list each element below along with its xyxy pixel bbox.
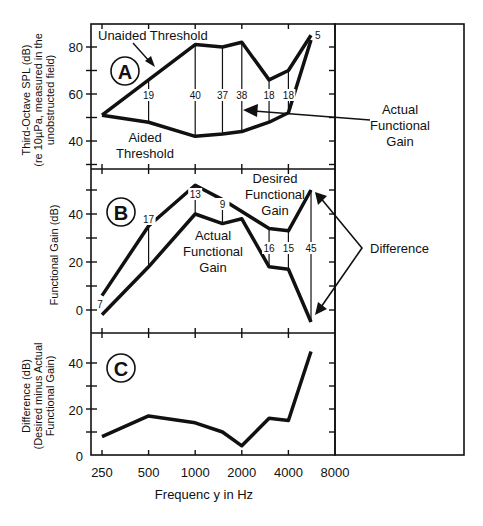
aided-threshold-label-line1: Aided <box>128 130 161 145</box>
gain-value-label: 5 <box>315 30 321 41</box>
panel-c-y-axis-label: Difference (dB) (Desired minus Actual Fu… <box>20 343 56 450</box>
difference-value-label: 13 <box>190 189 202 200</box>
difference-value-label: 17 <box>143 214 155 225</box>
panel-c-ylabel-line2: (Desired minus Actual <box>32 343 44 450</box>
afg-label-line1: Actual <box>382 102 418 117</box>
panel-a-ytick-40: 40 <box>69 134 83 149</box>
x-tick-label: 1000 <box>181 465 210 480</box>
aided-threshold-label-line2: Threshold <box>116 146 174 161</box>
difference-bracket-arrow <box>319 196 362 310</box>
x-tick-label: 500 <box>138 465 160 480</box>
x-tick-label: 4000 <box>274 465 303 480</box>
actual-label-line2: Functional <box>183 244 243 259</box>
actual-label-line3: Gain <box>199 260 226 275</box>
panel-b-y-axis-label: Functional Gain (dB) <box>48 205 60 306</box>
badge-letter-c: C <box>114 358 128 380</box>
desired-label-line1: Desired <box>253 171 298 186</box>
gain-value-label: 40 <box>190 90 202 101</box>
panel-a: Third-Octave SPL (dB) (re 10µPa, measure… <box>20 28 430 167</box>
afg-label-line3: Gain <box>386 134 413 149</box>
panel-a-ytick-60: 60 <box>69 87 83 102</box>
afg-label-line2: Functional <box>370 118 430 133</box>
unaided-threshold-label: Unaided Threshold <box>98 28 208 43</box>
gain-value-label: 19 <box>143 90 155 101</box>
desired-label-line3: Gain <box>261 203 288 218</box>
panel-c-ytick-20: 20 <box>69 403 83 418</box>
actual-label-line1: Actual <box>195 228 231 243</box>
difference-value-label: 15 <box>283 243 295 254</box>
difference-value-label: 45 <box>305 243 317 254</box>
gain-value-label: 18 <box>283 90 295 101</box>
difference-value-label: 9 <box>220 199 226 210</box>
panel-a-badge: A <box>111 57 139 85</box>
gain-value-label: 37 <box>217 90 229 101</box>
panel-a-ytick-80: 80 <box>69 40 83 55</box>
difference-value-label: 16 <box>263 243 275 254</box>
panel-a-y-axis-label: Third-Octave SPL (dB) (re 10µPa, measure… <box>20 33 56 167</box>
afg-arrow-shaft <box>254 111 370 120</box>
desired-label-line2: Functional <box>245 187 305 202</box>
functional-gain-figure: Third-Octave SPL (dB) (re 10µPa, measure… <box>0 0 483 526</box>
panel-b: Functional Gain (dB) 40 20 0 B 717139161… <box>48 171 429 322</box>
plot-frame <box>91 24 464 455</box>
difference-label: Difference <box>370 241 429 256</box>
x-tick-label: 2000 <box>227 465 256 480</box>
panel-c: Difference (dB) (Desired minus Actual Fu… <box>20 343 311 465</box>
panel-b-ytick-0: 0 <box>76 303 83 318</box>
gain-value-label: 18 <box>263 90 275 101</box>
unaided-threshold-line <box>102 35 311 115</box>
difference-value-label: 7 <box>97 299 103 310</box>
difference-line <box>102 352 311 446</box>
x-tick-label: 8000 <box>321 465 350 480</box>
panel-c-badge: C <box>107 354 135 382</box>
panel-a-ylabel-line2: (re 10µPa, measured in the <box>32 33 44 167</box>
gain-value-label: 38 <box>236 90 248 101</box>
panel-c-ylabel-line1: Difference (dB) <box>20 359 32 433</box>
panel-c-ytick-0: 0 <box>76 449 83 464</box>
badge-letter-a: A <box>118 61 132 83</box>
badge-letter-b: B <box>114 202 128 224</box>
afg-arrow-head <box>243 104 258 117</box>
panel-c-ylabel-line3: Functional Gain) <box>44 356 56 437</box>
panel-c-ytick-40: 40 <box>69 356 83 371</box>
aided-threshold-line <box>102 40 311 136</box>
panel-b-badge: B <box>107 198 135 226</box>
panel-b-ytick-20: 20 <box>69 255 83 270</box>
panel-a-ylabel-line3: unobstructed field) <box>44 55 56 146</box>
panel-b-ytick-40: 40 <box>69 207 83 222</box>
x-tick-labels: 2505001000200040008000 <box>91 465 349 480</box>
x-axis-label: Frequenc y in Hz <box>155 487 253 502</box>
x-tick-label: 250 <box>91 465 113 480</box>
difference-arrow-head-down <box>315 302 327 315</box>
panel-a-ylabel-line1: Third-Octave SPL (dB) <box>20 45 32 156</box>
